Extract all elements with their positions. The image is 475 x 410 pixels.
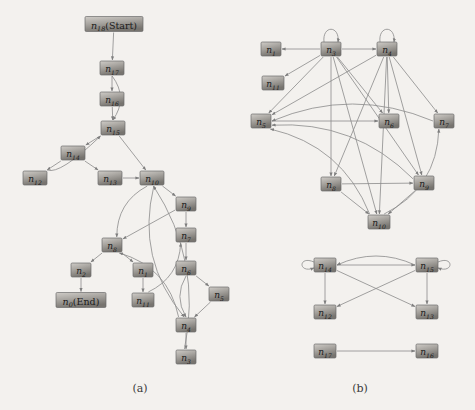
node-box bbox=[434, 114, 454, 128]
edge-a-n14-to-a-n13 bbox=[85, 161, 98, 170]
node-box bbox=[321, 42, 341, 56]
graph-node-a-n14[interactable]: n14 bbox=[61, 146, 85, 161]
edge-b-n10-to-b-n5 bbox=[270, 129, 369, 214]
node-box bbox=[101, 121, 125, 135]
graph-node-b-n16[interactable]: n16 bbox=[416, 344, 438, 359]
edge-b-n15-to-b-n14 bbox=[337, 256, 415, 265]
edges-layer bbox=[47, 29, 450, 351]
nodes-layer: n18(Start)n17n16n15n14n12n13n10n9n7n8n2n… bbox=[23, 17, 454, 365]
edge-b-n4-to-b-n7 bbox=[393, 57, 437, 113]
graph-node-b-n15[interactable]: n15 bbox=[416, 258, 438, 273]
node-box bbox=[377, 42, 397, 56]
graph-node-b-n7[interactable]: n7 bbox=[434, 114, 454, 129]
node-box bbox=[314, 305, 336, 319]
edge-a-n15-to-a-n10 bbox=[119, 136, 146, 170]
node-box bbox=[414, 176, 434, 190]
graph-node-a-n3[interactable]: n3 bbox=[176, 350, 196, 365]
node-box bbox=[85, 17, 143, 32]
graph-node-b-n3[interactable]: n3 bbox=[321, 42, 341, 57]
node-box bbox=[98, 171, 122, 185]
graph-node-b-n8[interactable]: n8 bbox=[321, 177, 341, 192]
edge-b-n10-to-b-n7 bbox=[384, 129, 439, 214]
graph-node-b-n1[interactable]: n1 bbox=[261, 42, 281, 57]
edge-a-n8-to-a-n2 bbox=[91, 253, 102, 262]
node-box bbox=[132, 293, 154, 307]
node-box bbox=[100, 61, 124, 75]
edge-a-n6-to-a-n5 bbox=[196, 276, 209, 286]
edge-a-n18-to-a-n17 bbox=[112, 33, 113, 61]
edge-a-n6-to-a-n4 bbox=[180, 276, 186, 317]
node-box bbox=[251, 114, 271, 128]
node-box bbox=[140, 171, 164, 185]
node-box bbox=[321, 177, 341, 191]
graph-node-b-n11[interactable]: n11 bbox=[262, 76, 284, 91]
node-box bbox=[100, 92, 124, 106]
graph-node-a-n10[interactable]: n10 bbox=[140, 171, 164, 186]
edge-b-n8-to-b-n9 bbox=[342, 183, 413, 184]
edge-b-n7-to-b-n5 bbox=[272, 104, 433, 121]
graph-node-a-n16[interactable]: n16 bbox=[100, 92, 124, 107]
graph-node-b-n9[interactable]: n9 bbox=[414, 176, 434, 191]
graph-node-a-n12[interactable]: n12 bbox=[23, 171, 47, 186]
edge-b-n3-to-b-n3 bbox=[324, 29, 338, 42]
graph-node-a-n1[interactable]: n1 bbox=[133, 263, 153, 278]
node-box bbox=[416, 258, 438, 272]
node-box bbox=[23, 171, 47, 185]
node-box bbox=[262, 76, 284, 90]
edge-a-n4-to-a-n8 bbox=[119, 253, 178, 317]
edge-b-n4-to-b-n10 bbox=[379, 57, 386, 214]
node-box bbox=[314, 258, 336, 272]
edge-b-n4-to-b-n6 bbox=[387, 57, 389, 113]
node-box bbox=[71, 263, 91, 277]
edge-b-n15-to-b-n15 bbox=[438, 260, 450, 269]
edge-b-n14-to-b-n14 bbox=[302, 260, 314, 269]
graph-node-a-n13[interactable]: n13 bbox=[98, 171, 122, 186]
node-box bbox=[176, 197, 196, 211]
node-box bbox=[209, 287, 229, 301]
node-box bbox=[368, 215, 390, 229]
node-box bbox=[102, 238, 122, 252]
graph-node-b-n10[interactable]: n10 bbox=[368, 215, 390, 230]
captions-layer: (a)(b) bbox=[132, 382, 367, 395]
caption-b: (b) bbox=[352, 382, 368, 395]
graph-node-a-n11[interactable]: n11 bbox=[132, 293, 154, 308]
graph-node-a-n15[interactable]: n15 bbox=[101, 121, 125, 136]
edge-a-n5-to-a-n4 bbox=[195, 302, 211, 317]
edge-b-n9-to-b-n10 bbox=[388, 191, 415, 214]
graph-node-b-n5[interactable]: n5 bbox=[251, 114, 271, 129]
graph-node-a-n0[interactable]: n0(End) bbox=[56, 293, 106, 309]
edge-b-n3-to-b-n9 bbox=[337, 57, 419, 175]
graph-node-a-n8[interactable]: n8 bbox=[102, 238, 122, 253]
graph-node-b-n13[interactable]: n13 bbox=[416, 305, 438, 320]
graph-node-a-n5[interactable]: n5 bbox=[209, 287, 229, 302]
node-box bbox=[416, 305, 438, 319]
graph-node-b-n6[interactable]: n6 bbox=[379, 114, 399, 129]
edge-b-n4-to-b-n4 bbox=[380, 29, 394, 42]
graph-node-a-n4[interactable]: n4 bbox=[176, 318, 196, 333]
node-box bbox=[176, 228, 196, 242]
edge-b-n3-to-b-n6 bbox=[337, 57, 382, 113]
graph-node-a-n9[interactable]: n9 bbox=[176, 197, 196, 212]
node-box bbox=[416, 344, 438, 358]
node-box bbox=[176, 261, 196, 275]
graph-node-a-n2[interactable]: n2 bbox=[71, 263, 91, 278]
node-box bbox=[379, 114, 399, 128]
node-box bbox=[176, 318, 196, 332]
edge-a-n10-to-a-n9 bbox=[162, 186, 175, 196]
node-box bbox=[61, 146, 85, 160]
graph-node-b-n14[interactable]: n14 bbox=[314, 258, 336, 273]
graph-node-a-n6[interactable]: n6 bbox=[176, 261, 196, 276]
graph-node-a-n18[interactable]: n18(Start) bbox=[85, 17, 143, 33]
node-box bbox=[176, 350, 196, 364]
edge-a-n10-to-a-n8 bbox=[117, 186, 147, 237]
graph-figure-svg: n18(Start)n17n16n15n14n12n13n10n9n7n8n2n… bbox=[0, 0, 475, 410]
figure-container: n18(Start)n17n16n15n14n12n13n10n9n7n8n2n… bbox=[0, 0, 475, 410]
graph-node-b-n12[interactable]: n12 bbox=[314, 305, 336, 320]
graph-node-a-n7[interactable]: n7 bbox=[176, 228, 196, 243]
graph-node-b-n4[interactable]: n4 bbox=[377, 42, 397, 57]
graph-node-a-n17[interactable]: n17 bbox=[100, 61, 124, 76]
node-box bbox=[261, 42, 281, 56]
node-box bbox=[314, 344, 336, 358]
edge-b-n9-to-b-n5 bbox=[272, 125, 413, 179]
graph-node-b-n17[interactable]: n17 bbox=[314, 344, 336, 359]
